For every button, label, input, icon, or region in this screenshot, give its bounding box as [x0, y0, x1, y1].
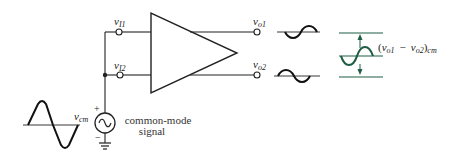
ground-icon — [99, 143, 111, 149]
label-vo2: vo2 — [253, 58, 266, 72]
amplifier-triangle — [151, 13, 237, 93]
label-cm-difference: (vo1−vo2)cm — [378, 41, 437, 55]
waveform-vo2 — [274, 70, 320, 82]
source-minus: − — [95, 132, 101, 143]
output-terminal-vo2 — [254, 72, 260, 78]
source-caption-line2: signal — [139, 125, 165, 137]
input-terminal-vI1 — [116, 29, 122, 35]
input-wiring — [105, 32, 151, 113]
waveform-vo1 — [277, 26, 320, 38]
label-vo1: vo1 — [253, 15, 266, 29]
circuit-diagram: vI1 vI2 vo1 vo2 (vo1− — [0, 0, 459, 165]
source-plus: + — [94, 103, 100, 114]
waveform-vcm — [23, 101, 80, 148]
label-vcm: vcm — [74, 110, 88, 124]
output-terminal-vo1 — [254, 29, 260, 35]
junction-dot — [103, 73, 107, 77]
label-vI2: vI2 — [114, 59, 126, 73]
output-wiring — [190, 32, 254, 75]
cm-difference-indicator — [339, 33, 383, 77]
label-vI1: vI1 — [114, 15, 126, 29]
